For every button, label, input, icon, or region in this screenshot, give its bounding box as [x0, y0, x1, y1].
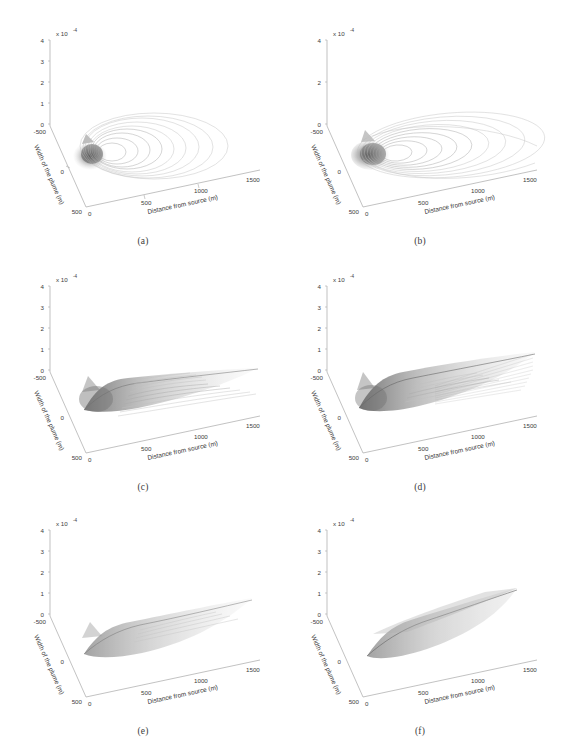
x-axis-title: Distance from source (m) — [147, 439, 219, 462]
z-tick-0: 0 — [41, 611, 45, 618]
z-tick-0: 0 — [318, 367, 322, 374]
y-tick-0: 0 — [61, 414, 65, 421]
plot-axes-a: x 10 -4 4 3 2 1 0 -500 0 500 Width of th… — [8, 22, 278, 240]
z-axis-e: x 10 -4 4 3 2 1 0 — [41, 518, 78, 618]
plot-axes-e: x 10 -4 4 3 2 1 0 -500 0 500 Width of th… — [8, 512, 278, 730]
panel-caption-c: (c) — [8, 482, 278, 492]
y-tick-500: 500 — [349, 208, 360, 215]
x-tick-500: 500 — [418, 445, 429, 452]
y-axis-f: -500 0 500 Width of the plume (m) — [309, 616, 363, 705]
x-tick-1500: 1500 — [246, 422, 260, 429]
x-tick-0: 0 — [365, 456, 369, 463]
x-tick-1500: 1500 — [246, 666, 260, 673]
z-tick-3: 3 — [41, 58, 45, 65]
y-tick-neg500: -500 — [34, 618, 47, 625]
y-tick-500: 500 — [72, 454, 83, 461]
z-axis-c: x 10 -4 4 3 2 1 0 — [41, 274, 78, 374]
plot-panel-c: x 10 -4 4 3 2 1 0 -500 0 500 Width of th… — [8, 268, 278, 513]
plume-surface-f — [367, 588, 517, 658]
z-axis-f: x 10 -4 4 3 2 1 0 — [318, 518, 355, 618]
x-tick-1500: 1500 — [523, 666, 537, 673]
z-axis-exponent-power: -4 — [350, 28, 355, 33]
z-tick-1: 1 — [318, 346, 322, 353]
z-tick-2: 2 — [318, 325, 322, 332]
z-tick-0: 0 — [318, 121, 322, 128]
x-tick-500: 500 — [418, 199, 429, 206]
z-tick-4: 4 — [41, 527, 45, 534]
plot-panel-d: x 10 -4 4 3 2 1 0 -500 0 500 Width of th… — [285, 268, 555, 513]
x-tick-500: 500 — [141, 199, 152, 206]
z-tick-4: 4 — [318, 527, 322, 534]
y-axis-a: -500 0 500 Width of the plume (m) — [32, 126, 86, 215]
y-tick-500: 500 — [349, 454, 360, 461]
x-tick-500: 500 — [141, 689, 152, 696]
plot-panel-a: x 10 -4 4 3 2 1 0 -500 0 500 Width of th… — [8, 22, 278, 267]
x-axis-c: 0 500 1000 1500 Distance from source (m) — [86, 416, 260, 463]
x-axis-e: 0 500 1000 1500 Distance from source (m) — [86, 660, 260, 707]
y-tick-neg500: -500 — [311, 618, 324, 625]
plume-surface-e — [82, 598, 252, 657]
z-tick-4: 4 — [318, 37, 322, 44]
plot-axes-b: x 10 -4 4 2 0 -500 0 500 Width of the pl… — [285, 22, 555, 240]
z-axis-exponent-power: -4 — [350, 518, 355, 523]
plot-axes-c: x 10 -4 4 3 2 1 0 -500 0 500 Width of th… — [8, 268, 278, 486]
z-tick-2: 2 — [41, 569, 45, 576]
x-tick-0: 0 — [88, 456, 92, 463]
z-tick-1: 1 — [41, 346, 45, 353]
z-tick-3: 3 — [318, 304, 322, 311]
y-tick-neg500: -500 — [311, 128, 324, 135]
z-tick-4: 4 — [41, 283, 45, 290]
z-tick-3: 3 — [41, 304, 45, 311]
plot-panel-b: x 10 -4 4 2 0 -500 0 500 Width of the pl… — [285, 22, 555, 267]
x-tick-1000: 1000 — [471, 433, 485, 440]
x-tick-1000: 1000 — [194, 187, 208, 194]
z-tick-3: 3 — [318, 548, 322, 555]
z-tick-0: 0 — [318, 611, 322, 618]
panel-caption-b: (b) — [285, 236, 555, 246]
z-axis-exponent-power: -4 — [73, 28, 78, 33]
y-axis-b: -500 0 500 Width of the plume (m) — [309, 126, 363, 215]
z-tick-2: 2 — [318, 569, 322, 576]
y-tick-0: 0 — [61, 168, 65, 175]
plot-panel-f: x 10 -4 4 3 2 1 0 -500 0 500 Width of th… — [285, 512, 555, 741]
y-axis-c: -500 0 500 Width of the plume (m) — [32, 372, 86, 461]
z-tick-1: 1 — [41, 100, 45, 107]
z-axis-exponent: x 10 — [56, 520, 68, 527]
x-axis-title: Distance from source (m) — [424, 683, 496, 706]
z-tick-3: 3 — [41, 548, 45, 555]
plume-surface-b — [351, 105, 547, 185]
z-tick-1: 1 — [41, 590, 45, 597]
x-tick-1500: 1500 — [523, 422, 537, 429]
y-tick-neg500: -500 — [34, 128, 47, 135]
plot-axes-d: x 10 -4 4 3 2 1 0 -500 0 500 Width of th… — [285, 268, 555, 486]
y-tick-0: 0 — [61, 658, 65, 665]
y-tick-neg500: -500 — [34, 374, 47, 381]
x-axis-a: 0 500 1000 1500 Distance from source (m) — [86, 170, 260, 217]
x-tick-500: 500 — [141, 445, 152, 452]
x-axis-title: Distance from source (m) — [147, 683, 219, 706]
plume-surface-a — [73, 113, 228, 179]
x-tick-1500: 1500 — [523, 176, 537, 183]
z-axis-exponent: x 10 — [333, 520, 345, 527]
x-tick-1500: 1500 — [246, 176, 260, 183]
z-tick-0: 0 — [41, 367, 45, 374]
x-axis-f: 0 500 1000 1500 Distance from source (m) — [363, 660, 537, 707]
z-axis-exponent: x 10 — [56, 276, 68, 283]
x-tick-0: 0 — [365, 210, 369, 217]
plume-surface-d — [355, 352, 535, 411]
y-tick-500: 500 — [72, 208, 83, 215]
y-tick-500: 500 — [349, 698, 360, 705]
z-tick-1: 1 — [318, 590, 322, 597]
x-axis-d: 0 500 1000 1500 Distance from source (m) — [363, 416, 537, 463]
panel-caption-e: (e) — [8, 726, 278, 736]
z-tick-2: 2 — [41, 325, 45, 332]
x-tick-1000: 1000 — [194, 677, 208, 684]
y-tick-0: 0 — [338, 168, 342, 175]
y-axis-e: -500 0 500 Width of the plume (m) — [32, 616, 86, 705]
z-axis-exponent: x 10 — [333, 30, 345, 37]
plot-axes-f: x 10 -4 4 3 2 1 0 -500 0 500 Width of th… — [285, 512, 555, 730]
x-tick-0: 0 — [88, 700, 92, 707]
y-axis-d: -500 0 500 Width of the plume (m) — [309, 372, 363, 461]
x-tick-1000: 1000 — [471, 677, 485, 684]
